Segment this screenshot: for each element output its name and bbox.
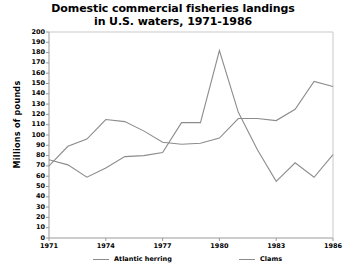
plot-area — [0, 0, 346, 266]
data-series — [49, 51, 333, 182]
chart-container: Domestic commercial fisheries landings i… — [0, 0, 346, 266]
legend-swatch-clams — [239, 259, 255, 260]
legend-label-clams: Clams — [260, 255, 282, 263]
series-line-clams — [49, 81, 333, 165]
legend-label-atlantic-herring: Atlantic herring — [114, 255, 172, 263]
legend-swatch-atlantic-herring — [93, 259, 109, 260]
series-line-atlantic-herring — [49, 51, 333, 182]
